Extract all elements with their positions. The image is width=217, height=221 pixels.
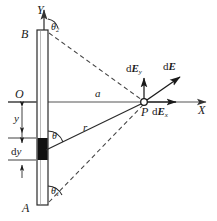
- dimension-dy-label: dy: [11, 146, 21, 157]
- rod-endpoint-label-A: A: [22, 202, 29, 214]
- angle-label-theta2: θ2: [51, 22, 59, 32]
- distance-a-label: a: [95, 88, 101, 99]
- theta1-subscript: 1: [56, 190, 59, 197]
- dimension-y-label: y: [14, 113, 19, 124]
- dEy-E: E: [132, 62, 139, 74]
- angle-label-theta1: θ1: [51, 186, 59, 196]
- vector-label-dE-x: dEx: [152, 106, 168, 117]
- dashed-line-A-to-P: [49, 105, 143, 202]
- x-axis-label: X: [198, 104, 205, 116]
- charged-rod: [37, 30, 48, 205]
- rod-endpoint-label-B: B: [21, 28, 28, 40]
- dimension-y: [8, 102, 36, 138]
- angle-label-theta: θ: [52, 131, 57, 141]
- dE-E: E: [169, 60, 176, 72]
- vector-dE: [144, 77, 180, 102]
- dEx-subscript: x: [165, 111, 168, 119]
- vector-label-dE: dE: [163, 61, 176, 72]
- r-line: [46, 103, 143, 150]
- theta2-subscript: 2: [56, 26, 59, 33]
- diagram-canvas: [0, 0, 217, 221]
- y-axis-label: Y: [37, 4, 44, 16]
- charge-element-dy: [38, 138, 48, 160]
- dEy-subscript: y: [139, 68, 142, 76]
- distance-r-label: r: [83, 122, 87, 133]
- physics-diagram-figure: Y X O B A P a r y dy θ2 θ θ1 dEy dE dEx: [0, 0, 217, 221]
- vector-label-dE-y: dEy: [126, 63, 142, 74]
- dEx-E: E: [158, 105, 165, 117]
- origin-label: O: [15, 88, 24, 100]
- point-P-label: P: [141, 106, 148, 118]
- dy-variable: y: [17, 145, 22, 157]
